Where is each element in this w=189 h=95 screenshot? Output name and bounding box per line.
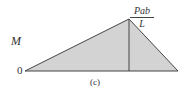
peak-moment-label: Pab L bbox=[130, 6, 154, 29]
figure-caption: (c) bbox=[90, 78, 100, 87]
peak-numerator: Pab bbox=[130, 6, 154, 18]
peak-denominator: L bbox=[130, 18, 154, 29]
y-axis-label: M bbox=[11, 35, 21, 47]
origin-label: 0 bbox=[17, 65, 23, 76]
moment-triangle bbox=[25, 19, 178, 71]
